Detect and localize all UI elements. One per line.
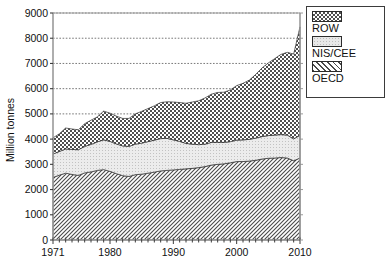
x-tick-label: 2010 xyxy=(288,246,312,258)
legend-label-row: ROW xyxy=(312,22,380,34)
y-tick-label: 6000 xyxy=(25,82,49,94)
y-tick-label: 1000 xyxy=(25,208,49,220)
y-tick-label: 8000 xyxy=(25,32,49,44)
x-tick-label: 1990 xyxy=(162,246,186,258)
chart-figure: 0100020003000400050006000700080009000197… xyxy=(0,0,391,273)
y-tick-label: 3000 xyxy=(25,158,49,170)
y-tick-label: 4000 xyxy=(25,133,49,145)
x-tick-label: 2000 xyxy=(225,246,249,258)
area-series-group xyxy=(53,27,300,240)
legend-swatch-row xyxy=(312,11,342,22)
x-tick-label: 1971 xyxy=(41,246,65,258)
x-tick-label: 1980 xyxy=(98,246,122,258)
legend-label-oecd: OECD xyxy=(312,72,380,84)
legend-swatch-nis-cee xyxy=(312,36,342,47)
y-tick-label: 9000 xyxy=(25,7,49,19)
y-tick-label: 5000 xyxy=(25,107,49,119)
chart-legend: ROW NIS/CEE OECD xyxy=(306,6,385,98)
legend-item-row: ROW xyxy=(312,11,380,34)
legend-item-oecd: OECD xyxy=(312,61,380,84)
y-tick-label: 0 xyxy=(42,234,48,246)
legend-item-nis-cee: NIS/CEE xyxy=(312,36,380,59)
y-tick-label: 2000 xyxy=(25,183,49,195)
legend-swatch-oecd xyxy=(312,61,342,72)
y-axis-title: Million tonnes xyxy=(4,98,16,162)
legend-label-nis-cee: NIS/CEE xyxy=(312,47,380,59)
y-tick-label: 7000 xyxy=(25,57,49,69)
